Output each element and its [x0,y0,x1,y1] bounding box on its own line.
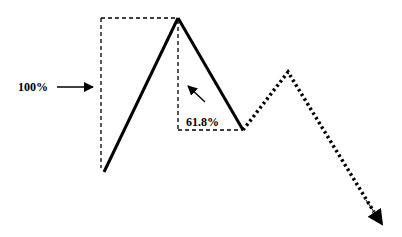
projection-path [243,72,374,212]
retracement-label: 61.8% [186,115,219,129]
projection-arrow-icon [366,200,382,224]
impulse-leg [104,18,178,172]
full-move-label: 100% [18,80,48,94]
fibonacci-diagram: 100% 61.8% [0,0,402,237]
retracement-arrow-icon [188,86,205,102]
retracement-leg [178,18,243,130]
